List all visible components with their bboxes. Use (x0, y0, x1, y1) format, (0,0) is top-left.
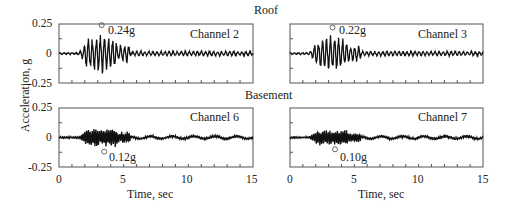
xtick: 10 (412, 173, 424, 185)
waveform (290, 130, 483, 145)
basement-label: Basement (245, 88, 292, 103)
ytick: -0.25 (28, 161, 52, 173)
peak-marker (330, 25, 335, 30)
peak-annotation-ch7: 0.10g (340, 150, 367, 165)
ytick: 0 (46, 47, 52, 59)
x-axis-label: Time, sec (358, 187, 404, 202)
xtick: 5 (120, 173, 126, 185)
peak-marker (333, 147, 338, 152)
ytick: 0 (46, 131, 52, 143)
xtick: 15 (246, 173, 258, 185)
peak-marker (99, 23, 104, 28)
channel-6-title: Channel 6 (190, 110, 239, 125)
x-axis-label: Time, sec (127, 187, 173, 202)
waveform (59, 129, 253, 147)
ytick: 0.25 (32, 17, 52, 29)
peak-annotation-ch3: 0.22g (339, 23, 366, 38)
channel-2-title: Channel 2 (190, 27, 239, 42)
xtick: 0 (56, 173, 62, 185)
ytick: 0.25 (32, 101, 52, 113)
ytick: -0.25 (28, 77, 52, 89)
channel-7-title: Channel 7 (418, 110, 467, 125)
peak-annotation-ch2: 0.24g (108, 23, 135, 38)
channel-3-title: Channel 3 (418, 27, 467, 42)
peak-marker (102, 149, 107, 154)
roof-label: Roof (254, 3, 278, 18)
xtick: 10 (181, 173, 193, 185)
peak-annotation-ch6: 0.12g (109, 150, 136, 165)
y-axis-label: Acceleration, g (18, 41, 33, 151)
xtick: 5 (351, 173, 357, 185)
xtick: 0 (287, 173, 293, 185)
xtick: 15 (477, 173, 489, 185)
